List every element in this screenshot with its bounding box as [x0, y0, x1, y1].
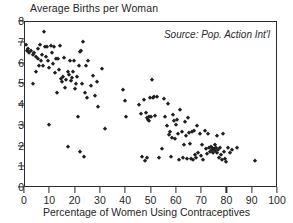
x-axis-tick-mark [226, 187, 227, 193]
x-axis-tick-mark [201, 187, 202, 193]
scatter-chart: Average Births per Woman Source: Pop. Ac… [0, 0, 293, 223]
x-axis-tick-label: 40 [119, 194, 131, 206]
x-axis-tick-mark [251, 187, 252, 193]
x-axis-tick-mark [150, 187, 151, 193]
x-axis-tick-label: 60 [170, 194, 182, 206]
x-axis-tick-label: 30 [94, 194, 106, 206]
x-axis-tick-label: 0 [21, 194, 27, 206]
x-axis: 0102030405060708090100 [0, 0, 293, 223]
x-axis-tick-label: 10 [43, 194, 55, 206]
x-axis-tick-mark [99, 187, 100, 193]
x-axis-tick-mark [49, 187, 50, 193]
x-axis-tick-mark [276, 187, 277, 193]
x-axis-tick-mark [175, 187, 176, 193]
x-axis-tick-label: 90 [246, 194, 258, 206]
x-axis-tick-label: 80 [221, 194, 233, 206]
x-axis-title: Percentage of Women Using Contraceptives [0, 206, 293, 218]
x-axis-tick-label: 70 [195, 194, 207, 206]
x-axis-tick-label: 50 [145, 194, 157, 206]
x-axis-tick-mark [74, 187, 75, 193]
x-axis-tick-mark [125, 187, 126, 193]
x-axis-tick-mark [23, 187, 24, 193]
x-axis-tick-label: 20 [69, 194, 81, 206]
x-axis-tick-label: 100 [268, 194, 286, 206]
